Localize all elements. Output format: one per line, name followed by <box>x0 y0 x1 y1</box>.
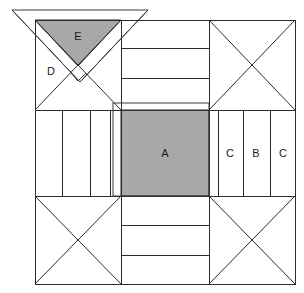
patch-label-d: D <box>47 65 55 77</box>
patch-label-b: B <box>252 147 259 159</box>
patch-label-c-inner: C <box>226 147 234 159</box>
patch-label-c-outer: C <box>279 147 287 159</box>
patch-label-e: E <box>74 30 81 42</box>
patch-label-a: A <box>161 147 169 159</box>
quilt-block-diagram: A C B C D E <box>0 0 304 293</box>
